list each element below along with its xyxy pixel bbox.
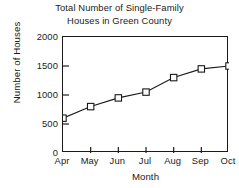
data-point-marker: [63, 115, 66, 121]
y-tick-label: 2000: [24, 31, 58, 42]
y-tick-label: 1500: [24, 60, 58, 71]
data-point-marker: [115, 95, 121, 101]
data-point-marker: [143, 89, 149, 95]
data-point-marker: [226, 63, 229, 69]
x-tick-label: Oct: [211, 155, 239, 166]
x-axis-label: Month: [62, 171, 229, 182]
chart-figure: Total Number of Single-Family Houses in …: [0, 0, 239, 188]
plot-area: [62, 36, 228, 152]
y-axis-tick-labels: 0500100015002000: [22, 36, 58, 152]
y-tick-label: 1000: [24, 89, 58, 100]
y-tick-label: 500: [24, 118, 58, 129]
data-point-marker: [198, 66, 204, 72]
data-point-marker: [87, 103, 93, 109]
chart-title: Total Number of Single-Family Houses in …: [0, 2, 239, 27]
line-series-houses: [63, 63, 229, 153]
x-axis-tick-labels: AprMayJunJulAugSepOct: [62, 155, 228, 169]
data-point-marker: [170, 74, 176, 80]
y-axis-label: Number of Houses: [11, 13, 22, 113]
series-canvas: [63, 37, 229, 153]
